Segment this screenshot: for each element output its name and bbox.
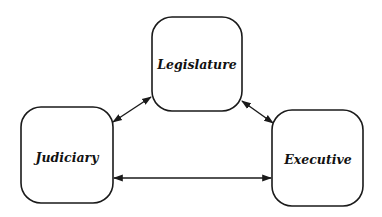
node-judiciary: Judiciary xyxy=(21,107,113,203)
edge-legislature-executive xyxy=(242,101,273,123)
edge-legislature-judiciary xyxy=(113,97,151,122)
node-executive: Executive xyxy=(272,110,363,206)
legislature-label: Legislature xyxy=(156,57,237,72)
judiciary-label: Judiciary xyxy=(34,150,100,165)
node-legislature: Legislature xyxy=(152,17,242,111)
branches-of-government-diagram: Legislature Judiciary Executive xyxy=(0,0,382,217)
executive-label: Executive xyxy=(283,152,351,167)
